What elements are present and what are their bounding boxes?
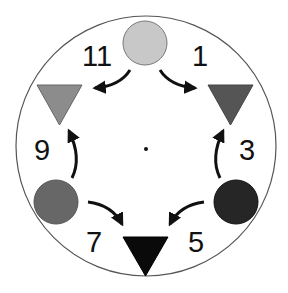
hour-label-3: 3	[239, 134, 255, 166]
shape-12-circle	[123, 21, 167, 65]
hour-label-11: 11	[82, 40, 112, 72]
clock-diagram: 11 1 9 3 7 5	[0, 0, 288, 293]
hour-label-5: 5	[188, 226, 204, 258]
shape-4-circle	[214, 180, 258, 224]
hour-label-7: 7	[86, 226, 102, 258]
hour-label-1: 1	[192, 40, 208, 72]
hour-label-9: 9	[34, 134, 50, 166]
center-dot-icon	[144, 147, 148, 151]
shape-8-circle	[34, 180, 78, 224]
